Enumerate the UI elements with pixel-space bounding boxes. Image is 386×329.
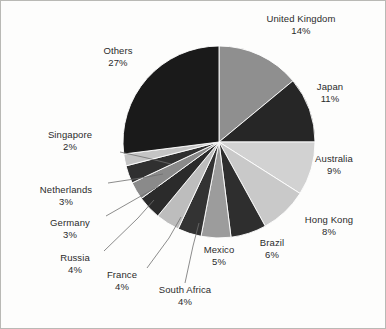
slice-label-others-value: 27% <box>92 57 144 69</box>
slice-label-japan: Japan 11% <box>303 81 357 104</box>
slice-label-united-kingdom-value: 14% <box>249 25 353 37</box>
slice-label-mexico-value: 5% <box>193 256 245 268</box>
slice-label-singapore: Singapore 2% <box>34 129 106 152</box>
slice-label-netherlands-value: 3% <box>26 196 106 208</box>
slice-label-france-name: France <box>97 269 147 281</box>
slice-label-russia: Russia 4% <box>48 252 102 275</box>
slice-label-hong-kong-value: 8% <box>291 226 367 238</box>
slice-label-russia-value: 4% <box>48 264 102 276</box>
slice-label-hong-kong-name: Hong Kong <box>291 214 367 226</box>
slice-label-netherlands: Netherlands 3% <box>26 184 106 207</box>
slice-label-united-kingdom: United Kingdom 14% <box>249 13 353 36</box>
slice-label-japan-value: 11% <box>303 93 357 105</box>
slice-label-germany-name: Germany <box>36 217 104 229</box>
slice-label-germany: Germany 3% <box>36 217 104 240</box>
slice-label-others-name: Others <box>92 45 144 57</box>
slice-label-others: Others 27% <box>92 45 144 68</box>
slice-label-russia-name: Russia <box>48 252 102 264</box>
slice-label-brazil-value: 6% <box>249 249 295 261</box>
slice-label-france: France 4% <box>97 269 147 292</box>
slice-label-south-africa: South Africa 4% <box>147 284 223 307</box>
slice-label-brazil: Brazil 6% <box>249 237 295 260</box>
slice-label-united-kingdom-name: United Kingdom <box>249 13 353 25</box>
slice-label-australia: Australia 9% <box>301 153 367 176</box>
slice-label-mexico: Mexico 5% <box>193 244 245 267</box>
slice-label-japan-name: Japan <box>303 81 357 93</box>
leader-line-russia <box>104 200 154 251</box>
slice-label-australia-value: 9% <box>301 165 367 177</box>
slice-label-mexico-name: Mexico <box>193 244 245 256</box>
slice-label-australia-name: Australia <box>301 153 367 165</box>
slice-label-south-africa-name: South Africa <box>147 284 223 296</box>
pie-chart-figure: United Kingdom 14% Japan 11% Australia 9… <box>0 0 386 329</box>
slice-label-netherlands-name: Netherlands <box>26 184 106 196</box>
slice-label-hong-kong: Hong Kong 8% <box>291 214 367 237</box>
pie-slices-group <box>123 46 315 238</box>
slice-label-france-value: 4% <box>97 281 147 293</box>
slice-label-south-africa-value: 4% <box>147 296 223 308</box>
slice-label-singapore-name: Singapore <box>34 129 106 141</box>
slice-label-brazil-name: Brazil <box>249 237 295 249</box>
slice-label-singapore-value: 2% <box>34 141 106 153</box>
slice-label-germany-value: 3% <box>36 229 104 241</box>
